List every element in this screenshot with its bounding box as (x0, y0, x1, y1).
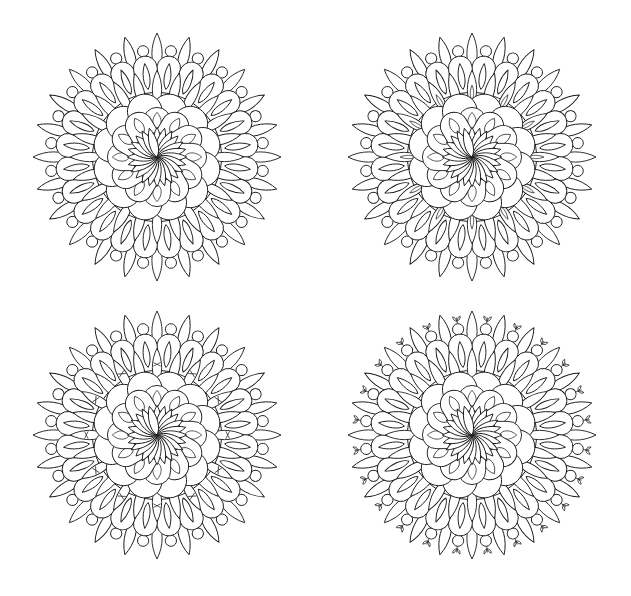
mandala-sheet (0, 0, 631, 596)
mandala-bottom-right (348, 311, 596, 559)
mandala-top-left (33, 33, 281, 281)
mandala-bottom-left (33, 311, 281, 559)
mandala-top-right (348, 33, 596, 281)
